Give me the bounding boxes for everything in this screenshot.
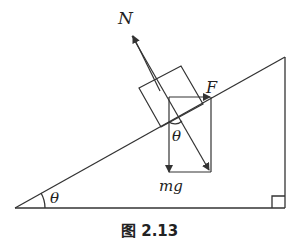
label-theta-block: θ	[172, 127, 181, 145]
resultant-arrow	[132, 36, 209, 170]
figure-caption: 图 2.13	[121, 222, 178, 238]
incline-angle-arc	[41, 193, 45, 208]
label-mg: mg	[159, 177, 183, 195]
right-angle-marker	[272, 196, 285, 208]
label-theta-incline: θ	[50, 189, 59, 207]
incline-diagram: N F mg θ θ 图 2.13	[0, 0, 289, 238]
incline-surface	[15, 57, 285, 208]
label-N: N	[117, 8, 134, 28]
inclined-plane	[15, 57, 285, 208]
label-F: F	[205, 78, 218, 97]
normal-force-arrow	[133, 36, 160, 91]
weight-decomposition	[132, 36, 211, 172]
